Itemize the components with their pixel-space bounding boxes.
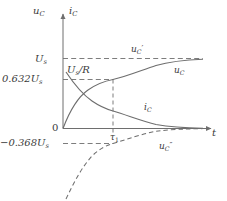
figure-canvas bbox=[0, 0, 227, 201]
y-tick-label-minus0368us: −0.368Us bbox=[0, 138, 49, 149]
y-tick-label-us: Us bbox=[35, 54, 47, 65]
curve-ic bbox=[66, 72, 203, 128]
y-axis-label-uc: uC bbox=[33, 6, 45, 17]
curve-label-ic: iC bbox=[144, 103, 152, 113]
curve-label-uc-prime: uC′ bbox=[131, 43, 143, 55]
y-tick-label-0632us: 0.632Us bbox=[2, 74, 43, 85]
x-tick-label-tau1: τ1 bbox=[110, 133, 119, 143]
curve-label-uc: uC bbox=[174, 66, 184, 76]
x-axis-label-t: t bbox=[212, 128, 216, 138]
rc-transient-figure: uC iC t 0 Us 0.632Us −0.368Us τ1 Us/R uC… bbox=[0, 0, 227, 201]
origin-label: 0 bbox=[52, 123, 58, 133]
curve-uc-double-prime bbox=[66, 129, 203, 199]
annotation-us-over-r: Us/R bbox=[67, 65, 90, 76]
curve-label-uc-double-prime: uC″ bbox=[159, 140, 173, 152]
y-axis-label-ic: iC bbox=[69, 6, 77, 17]
